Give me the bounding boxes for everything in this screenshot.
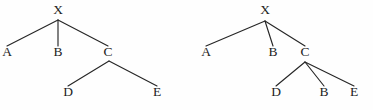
diagram-canvas: XABCDE XABCDBE [0, 0, 373, 110]
tree-edge-c-d [276, 62, 305, 86]
tree-node-label-r-a: A [201, 44, 211, 59]
tree-edge-c-b [305, 62, 324, 86]
tree-node-label-l-d: D [63, 84, 73, 99]
tree-node-label-l-b: B [53, 44, 62, 59]
tree-left: XABCDE [2, 2, 161, 99]
tree-node-label-l-x: X [53, 2, 63, 17]
tree-node-label-r-c: C [300, 44, 309, 59]
tree-edge-c-e [305, 62, 354, 86]
tree-node-label-r-x: X [260, 2, 270, 17]
tree-node-label-r-d: D [271, 84, 281, 99]
tree-node-label-l-a: A [2, 44, 12, 59]
tree-edge-c-d [68, 61, 109, 86]
tree-right: XABCDBE [201, 2, 358, 99]
tree-node-label-r-e: E [350, 84, 358, 99]
tree-node-label-r-b: B [268, 44, 277, 59]
tree-node-label-l-e: E [153, 84, 161, 99]
tree-edge-x-c [58, 20, 108, 46]
tree-edge-x-a [206, 21, 265, 46]
tree-node-label-r-b2: B [319, 84, 328, 99]
tree-edge-x-a [7, 20, 58, 46]
tree-edge-c-e [109, 61, 157, 86]
tree-edge-x-c [265, 21, 305, 46]
tree-diagram-figure: XABCDE XABCDBE [0, 0, 373, 110]
tree-node-label-l-c: C [103, 44, 112, 59]
